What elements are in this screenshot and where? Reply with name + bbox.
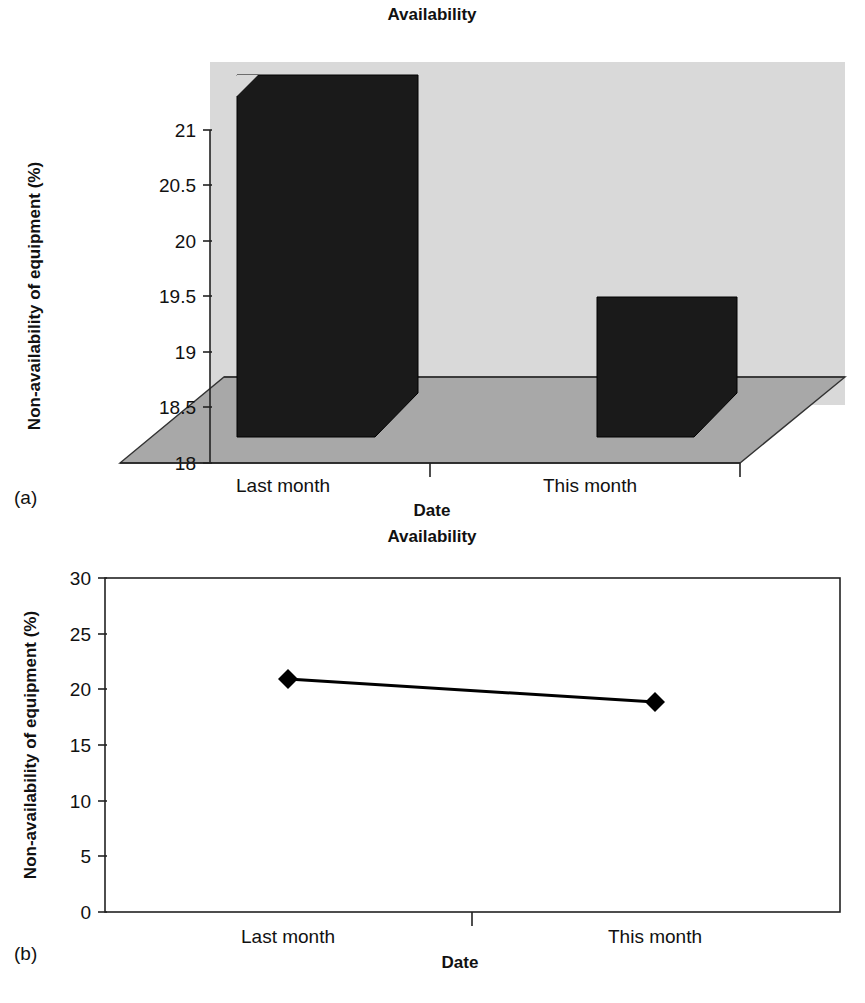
chart-b-ytick-0: 0: [80, 902, 91, 923]
chart-b-plot-frame: [105, 578, 840, 912]
chart-a-ytick-3: 19.5: [159, 286, 196, 307]
chart-b-x-axis-title: Date: [442, 953, 479, 972]
chart-b-ytick-1: 5: [80, 846, 91, 867]
chart-a-ytick-1: 18.5: [159, 397, 196, 418]
panel-b-label: (b): [14, 943, 37, 964]
figure-container: Availability 18 18.5 19: [0, 0, 865, 1003]
panel-a-label: (a): [14, 487, 37, 508]
chart-b-ytick-5: 25: [70, 624, 91, 645]
chart-a-bar-last-month: [237, 75, 418, 437]
chart-a-title: Availability: [387, 5, 477, 24]
chart-b-y-ticks: 0 5 10 15 20 25 30: [70, 568, 107, 923]
chart-b-svg: Availability 0 5 10 15 20 25 30 La: [0, 520, 865, 1003]
chart-a-ytick-6: 21: [175, 120, 196, 141]
chart-b-ytick-4: 20: [70, 679, 91, 700]
chart-b-xlabel-last-month: Last month: [241, 926, 335, 947]
chart-a-ytick-5: 20.5: [159, 175, 196, 196]
chart-a-y-axis-title: Non-availability of equipment (%): [25, 162, 44, 430]
chart-b-y-axis-title: Non-availability of equipment (%): [21, 611, 40, 879]
chart-a-x-axis-title: Date: [414, 501, 451, 520]
chart-b-ytick-3: 15: [70, 735, 91, 756]
chart-a-ytick-4: 20: [175, 231, 196, 252]
chart-a-svg: Availability 18 18.5 19: [0, 0, 865, 520]
chart-b-ytick-6: 30: [70, 568, 91, 589]
chart-b-title: Availability: [387, 527, 477, 546]
chart-b-xlabel-this-month: This month: [608, 926, 702, 947]
chart-b-ytick-2: 10: [70, 791, 91, 812]
chart-a-xlabel-last-month: Last month: [236, 475, 330, 496]
chart-a-xlabel-this-month: This month: [543, 475, 637, 496]
chart-a-ytick-2: 19: [175, 342, 196, 363]
